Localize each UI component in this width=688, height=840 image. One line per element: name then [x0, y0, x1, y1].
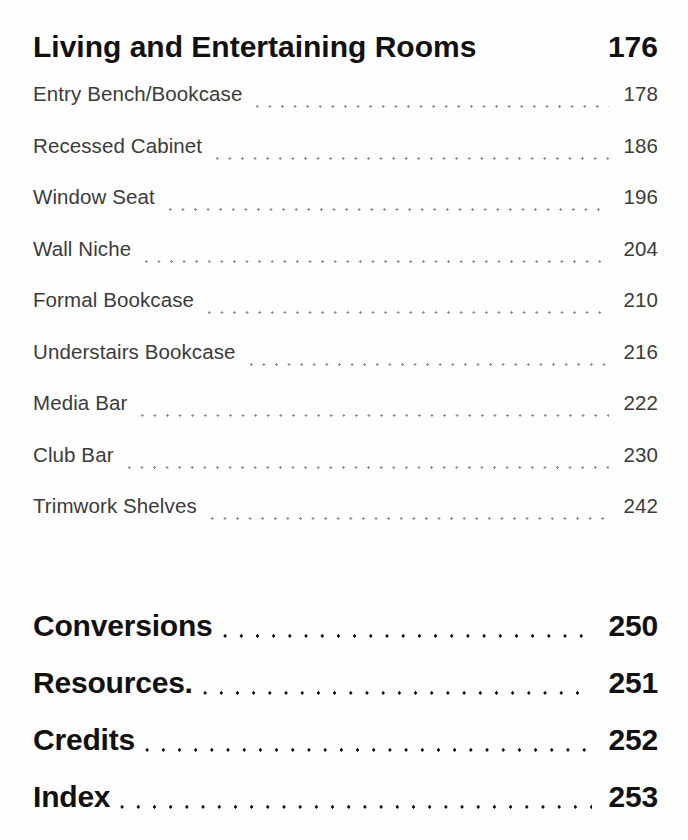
toc-entry-label: Trimwork Shelves [33, 494, 197, 518]
toc-backmatter-page: 253 [596, 780, 658, 814]
toc-entry-row[interactable]: Recessed Cabinet 186 [33, 134, 658, 186]
leader-dots [139, 742, 592, 758]
leader-dots [476, 48, 608, 64]
toc-backmatter-page: 252 [596, 723, 658, 757]
toc-entry-page: 204 [616, 237, 658, 261]
toc-backmatter-label: Index [33, 780, 112, 814]
toc-entry-page: 210 [616, 288, 658, 312]
leader-dots [123, 461, 609, 474]
toc-entry-page: 222 [616, 391, 658, 415]
toc-backmatter-row[interactable]: Index 253 [33, 780, 658, 837]
toc-section-heading-row[interactable]: Living and Entertaining Rooms 176 [33, 30, 658, 82]
leader-dots [245, 358, 609, 371]
toc-entry-page: 178 [616, 82, 658, 106]
toc-section-heading-label: Living and Entertaining Rooms [33, 30, 476, 64]
toc-entry-label: Understairs Bookcase [33, 340, 236, 364]
leader-dots [136, 409, 609, 422]
toc-entry-page: 186 [616, 134, 658, 158]
top-spacer [33, 0, 658, 30]
toc-entry-row[interactable]: Formal Bookcase 210 [33, 288, 658, 340]
leader-dots [164, 203, 609, 216]
toc-entry-page: 196 [616, 185, 658, 209]
toc-entry-row[interactable]: Window Seat 196 [33, 185, 658, 237]
toc-entry-page: 242 [616, 494, 658, 518]
toc-backmatter-row[interactable]: Resources. 251 [33, 666, 658, 723]
toc-page: Living and Entertaining Rooms 176 Entry … [0, 0, 688, 840]
toc-backmatter-row[interactable]: Credits 252 [33, 723, 658, 780]
leader-dots [217, 628, 592, 644]
leader-dots [211, 152, 609, 165]
leader-dots [251, 100, 609, 113]
leader-dots [140, 255, 609, 268]
toc-backmatter-page: 250 [596, 609, 658, 643]
toc-entry-row[interactable]: Trimwork Shelves 242 [33, 494, 658, 546]
toc-entry-page: 230 [616, 443, 658, 467]
leader-dots [203, 306, 609, 319]
toc-entry-label: Window Seat [33, 185, 155, 209]
toc-backmatter-label: Conversions [33, 609, 215, 643]
toc-entry-page: 216 [616, 340, 658, 364]
toc-backmatter-label: Credits [33, 723, 137, 757]
toc-entry-row[interactable]: Media Bar 222 [33, 391, 658, 443]
toc-entry-label: Formal Bookcase [33, 288, 194, 312]
toc-entry-row[interactable]: Wall Niche 204 [33, 237, 658, 289]
toc-entry-label: Wall Niche [33, 237, 131, 261]
toc-entry-label: Club Bar [33, 443, 114, 467]
toc-entry-label: Media Bar [33, 391, 127, 415]
toc-entry-row[interactable]: Understairs Bookcase 216 [33, 340, 658, 392]
toc-backmatter-label: Resources. [33, 666, 195, 700]
leader-dots [197, 685, 592, 701]
toc-section-heading-page: 176 [608, 30, 658, 64]
toc-entry-row[interactable]: Entry Bench/Bookcase 178 [33, 82, 658, 134]
leader-dots [206, 512, 609, 525]
section-gap [33, 546, 658, 609]
toc-entry-label: Entry Bench/Bookcase [33, 82, 242, 106]
toc-entry-label: Recessed Cabinet [33, 134, 202, 158]
leader-dots [114, 799, 592, 815]
toc-entry-row[interactable]: Club Bar 230 [33, 443, 658, 495]
toc-backmatter-row[interactable]: Conversions 250 [33, 609, 658, 666]
toc-backmatter-page: 251 [596, 666, 658, 700]
